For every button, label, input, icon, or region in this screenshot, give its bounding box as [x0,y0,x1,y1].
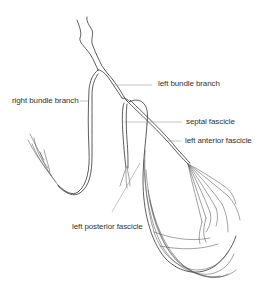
right-bundle-branch [28,70,98,195]
label-septal-fascicle: septal fascicle [186,117,235,127]
leader-lines [80,85,182,212]
label-left-anterior-fascicle: left anterior fascicle [185,136,252,146]
label-right-bundle-branch: right bundle branch [12,96,79,106]
label-left-posterior-fascicle: left posterior fascicle [72,222,143,232]
left-posterior-fascicle [143,124,236,278]
label-left-bundle-branch: left bundle branch [158,79,220,89]
his-bundle [77,17,113,80]
conduction-system-diagram: left bundle branch right bundle branch s… [0,0,263,296]
conduction-diagram-drawing [0,0,263,296]
